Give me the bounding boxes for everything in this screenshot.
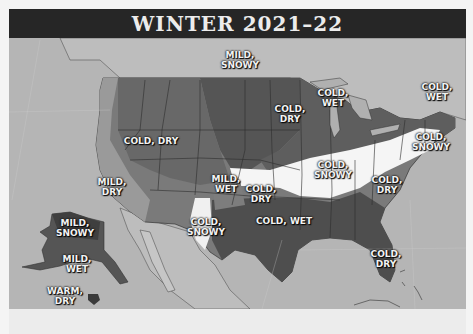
region-label-mountain-west: COLD, DRY <box>124 136 178 146</box>
map-title: WINTER 2021–22 <box>132 12 343 36</box>
region-label-california: MILD, DRY <box>98 177 127 197</box>
region-label-ohio-valley: COLD, SNOWY <box>314 160 352 180</box>
region-label-southeast-coast: COLD, DRY <box>372 175 403 195</box>
region-label-alaska-north: MILD, SNOWY <box>56 218 94 238</box>
region-label-upper-midwest: COLD, DRY <box>275 104 306 124</box>
title-bar: WINTER 2021–22 <box>9 9 466 38</box>
region-label-new-mexico-west-texas: COLD, SNOWY <box>187 217 225 237</box>
region-label-new-england: COLD, WET <box>422 82 453 102</box>
region-label-southern-plains: COLD, DRY <box>246 184 277 204</box>
region-label-hawaii: WARM, DRY <box>47 286 83 306</box>
region-label-mid-atlantic: COLD, SNOWY <box>412 132 450 152</box>
forecast-map: WINTER 2021–22 <box>9 9 466 309</box>
region-label-alaska-south: MILD, WET <box>63 254 92 274</box>
region-label-great-lakes: COLD, WET <box>318 88 349 108</box>
region-label-florida: COLD, DRY <box>371 249 402 269</box>
footer-strip <box>9 309 466 334</box>
region-label-northern-plains: MILD, SNOWY <box>221 50 259 70</box>
region-label-central-rockies: MILD, WET <box>212 174 241 194</box>
region-label-gulf-coast: COLD, WET <box>256 216 312 226</box>
